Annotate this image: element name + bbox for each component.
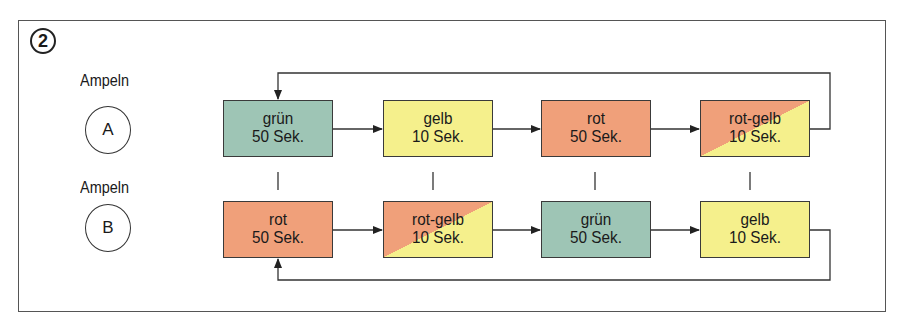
phase-box-b-1: rot 50 Sek. [223,201,333,258]
duration-label: 10 Sek. [706,128,803,146]
duration-label: 50 Sek. [229,229,326,247]
duration-label: 50 Sek. [547,128,644,146]
phase-label: rot [229,211,326,229]
phase-box-a-3: rot 50 Sek. [541,100,651,157]
connector-lines [0,0,902,328]
phase-box-b-3: grün 50 Sek. [541,201,651,258]
duration-label: 10 Sek. [706,229,803,247]
phase-label: gelb [389,110,486,128]
duration-label: 50 Sek. [229,128,326,146]
phase-box-b-2: rot-gelb 10 Sek. [383,201,493,258]
phase-label: rot-gelb [389,211,486,229]
phase-box-a-2: gelb 10 Sek. [383,100,493,157]
phase-label: grün [547,211,644,229]
phase-label: rot-gelb [706,110,803,128]
phase-box-a-1: grün 50 Sek. [223,100,333,157]
phase-box-a-4: rot-gelb 10 Sek. [700,100,810,157]
phase-box-b-4: gelb 10 Sek. [700,201,810,258]
phase-label: rot [547,110,644,128]
phase-label: grün [229,110,326,128]
phase-label: gelb [706,211,803,229]
duration-label: 10 Sek. [389,128,486,146]
duration-label: 50 Sek. [547,229,644,247]
duration-label: 10 Sek. [389,229,486,247]
